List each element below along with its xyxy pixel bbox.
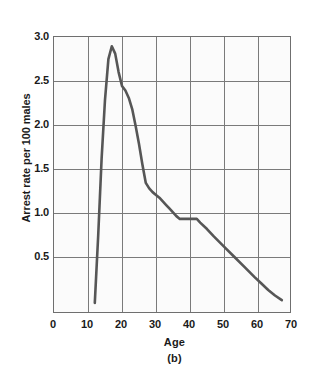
x-tick-label: 30 <box>140 318 170 330</box>
y-tick-label: 3.0 <box>3 31 49 42</box>
x-tick-label: 50 <box>208 318 238 330</box>
x-tick-label: 20 <box>106 318 136 330</box>
data-series-line <box>54 37 292 314</box>
plot-area <box>53 36 291 313</box>
x-tick-label: 10 <box>72 318 102 330</box>
x-tick-label: 70 <box>276 318 306 330</box>
x-axis-title: Age <box>0 336 331 348</box>
x-axis-title-text: Age <box>146 336 185 348</box>
figure-caption: (b) <box>0 352 331 364</box>
x-tick-label: 0 <box>38 318 68 330</box>
x-tick-label: 60 <box>242 318 272 330</box>
x-axis-tick-labels: 0 10 20 30 40 50 60 70 <box>0 318 331 334</box>
x-tick-label: 40 <box>174 318 204 330</box>
y-axis-title: Arrest rate per 100 males <box>20 58 32 258</box>
figure-caption-text: (b) <box>149 352 182 364</box>
figure-panel-b: 3.0 2.5 2.0 1.5 1.0 0.5 Arrest rate per … <box>0 0 331 379</box>
